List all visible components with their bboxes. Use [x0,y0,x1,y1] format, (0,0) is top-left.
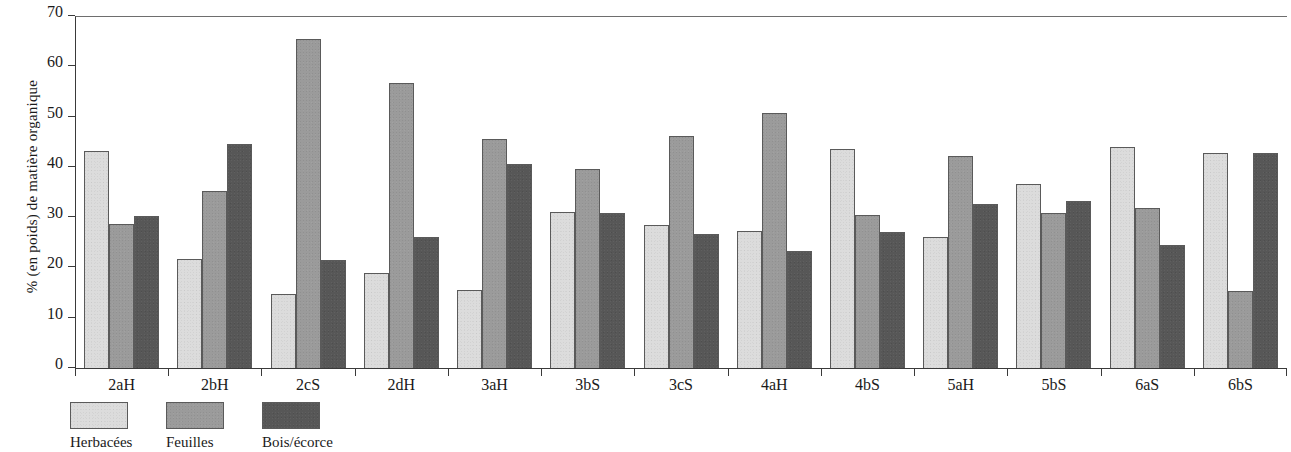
x-axis-tick: 2aH [75,368,168,394]
bar [1253,153,1278,368]
bar-groups [75,16,1287,368]
legend-item: Herbacées [70,402,166,450]
bar [855,215,880,368]
x-tick-mark [541,368,542,376]
bar [109,224,134,368]
y-tick-mark [68,15,75,16]
bar [457,290,482,368]
x-axis-tick: 3bS [541,368,634,394]
bar-group [821,16,914,368]
y-tick-label: 70 [47,4,63,20]
bar [134,216,159,368]
y-tick-label: 30 [47,205,63,221]
x-tick-mark [728,368,729,376]
x-tick-label: 5bS [1007,377,1100,393]
x-tick-mark [1101,368,1102,376]
bar-group [261,16,354,368]
legend-label: Herbacées [70,435,166,450]
bar [321,260,346,368]
bar [1016,184,1041,368]
y-tick-label: 40 [47,155,63,171]
x-axis-tick: 6aS [1101,368,1194,394]
bar-group [541,16,634,368]
bar-group [914,16,1007,368]
bar [1110,147,1135,368]
x-axis-ticks: 2aH2bH2cS2dH3aH3bS3cS4aH4bS5aH5bS6aS6bS [75,368,1287,394]
x-axis-tick: 4bS [821,368,914,394]
x-tick-label: 3cS [634,377,727,393]
legend-label: Feuilles [166,435,262,450]
x-tick-mark [448,368,449,376]
bar-group [355,16,448,368]
bar [737,231,762,368]
x-tick-mark [821,368,822,376]
y-tick-label: 50 [47,105,63,121]
y-tick-mark [68,116,75,117]
bar [787,251,812,368]
x-axis-tick: 2bH [168,368,261,394]
bar [1160,245,1185,368]
light-gray-swatch [70,402,128,429]
bar-group [1194,16,1287,368]
bar-group [168,16,261,368]
bar [1135,208,1160,368]
x-tick-label: 2aH [75,377,168,393]
y-tick-mark [68,166,75,167]
bar-chart: % (en poids) de matière organique 010203… [0,0,1291,452]
x-tick-mark [914,368,915,376]
bar [364,273,389,368]
x-tick-label: 2cS [261,377,354,393]
x-tick-label: 5aH [914,377,1007,393]
bar [1203,153,1228,368]
y-tick-label: 60 [47,54,63,70]
x-tick-label: 4bS [821,377,914,393]
bar [507,164,532,368]
bar-group [728,16,821,368]
x-tick-mark [355,368,356,376]
x-axis-tick: 3aH [448,368,541,394]
x-tick-mark [168,368,169,376]
medium-gray-swatch [166,402,224,429]
bar [575,169,600,368]
bar [296,39,321,368]
y-tick-mark [68,266,75,267]
x-axis-tick: 5aH [914,368,1007,394]
y-tick-mark [68,65,75,66]
bar-group [448,16,541,368]
legend-item: Feuilles [166,402,262,450]
x-tick-label: 6bS [1194,377,1287,393]
x-tick-mark [261,368,262,376]
y-tick-mark [68,367,75,368]
x-axis-tick: 2cS [261,368,354,394]
x-tick-label: 3bS [541,377,634,393]
y-axis-title: % (en poids) de matière organique [24,37,41,337]
bar-group [1101,16,1194,368]
y-tick-label: 10 [47,306,63,322]
bar [482,139,507,368]
x-tick-label: 6aS [1101,377,1194,393]
x-tick-label: 2dH [355,377,448,393]
bar [762,113,787,368]
bar [669,136,694,368]
bar [1228,291,1253,368]
bar [880,232,905,368]
bar [84,151,109,368]
bar [973,204,998,368]
bar [389,83,414,368]
bar [600,213,625,368]
bar [694,234,719,368]
dark-gray-swatch [262,402,320,429]
bar [550,212,575,368]
chart-legend: HerbacéesFeuillesBois/écorce [70,402,358,450]
bar-group [75,16,168,368]
x-axis-tick: 5bS [1007,368,1100,394]
bar-group [634,16,727,368]
y-tick-label: 0 [55,356,63,372]
x-tick-label: 3aH [448,377,541,393]
y-tick-mark [68,317,75,318]
x-axis-tick: 3cS [634,368,727,394]
bar [271,294,296,368]
x-axis-tick: 2dH [355,368,448,394]
bar [923,237,948,368]
bar [1041,213,1066,368]
